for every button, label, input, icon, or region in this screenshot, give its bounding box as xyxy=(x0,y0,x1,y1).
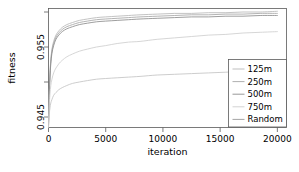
x-tick-label: 20000 xyxy=(263,134,292,144)
x-axis-ticks xyxy=(49,128,278,133)
fitness-vs-iteration-chart: 0.9450.955 05000100001500020000 iteratio… xyxy=(0,0,299,172)
y-tick-label: 0.955 xyxy=(36,34,46,60)
chart-canvas: 0.9450.955 05000100001500020000 iteratio… xyxy=(0,0,299,172)
legend-label: Random xyxy=(248,114,283,124)
y-tick-label: 0.945 xyxy=(36,104,46,130)
legend-label: 125m xyxy=(248,64,273,74)
y-axis-ticks xyxy=(44,12,49,117)
x-tick-label: 5000 xyxy=(94,134,117,144)
legend-label: 750m xyxy=(248,102,273,112)
x-axis-title: iteration xyxy=(147,146,187,157)
x-tick-label: 15000 xyxy=(206,134,235,144)
x-tick-label: 10000 xyxy=(149,134,178,144)
x-axis-tick-labels: 05000100001500020000 xyxy=(46,134,292,144)
legend-label: 250m xyxy=(248,77,273,87)
legend-label: 500m xyxy=(248,89,273,99)
chart-legend: 125m250m500m750mRandom xyxy=(229,60,287,128)
y-axis-title: fitness xyxy=(6,52,17,84)
x-tick-label: 0 xyxy=(46,134,52,144)
